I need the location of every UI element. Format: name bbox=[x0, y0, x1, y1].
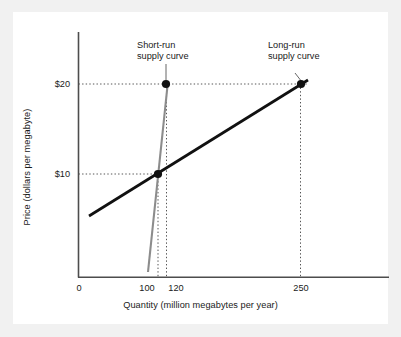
point-long-run-equilibrium bbox=[297, 80, 305, 88]
long-run-supply-curve bbox=[89, 80, 308, 216]
point-short-run-high-price bbox=[162, 80, 170, 88]
point-short-run-equilibrium bbox=[154, 170, 162, 178]
long-run-supply-curve-label: Long-run supply curve bbox=[268, 40, 320, 63]
guide-lines bbox=[79, 84, 309, 277]
x-tick-label-100: 100 bbox=[139, 283, 154, 293]
long-run-label-line2: supply curve bbox=[268, 51, 320, 62]
x-tick-label-0: 0 bbox=[76, 283, 81, 293]
x-axis-title: Quantity (million megabytes per year) bbox=[0, 300, 401, 310]
figure-root: $20 $10 0 100 120 250 Short-run supply c… bbox=[0, 0, 401, 337]
short-run-label-line2: supply curve bbox=[137, 51, 189, 62]
x-tick-label-120: 120 bbox=[168, 283, 183, 293]
y-tick-label-20: $20 bbox=[36, 79, 70, 89]
short-run-supply-curve-label: Short-run supply curve bbox=[137, 40, 189, 63]
x-tick-label-250: 250 bbox=[293, 283, 308, 293]
y-axis-title-wrap: Price (dollars per megabyte) bbox=[0, 0, 36, 337]
y-tick-label-10: $10 bbox=[36, 169, 70, 179]
short-run-label-line1: Short-run bbox=[137, 40, 189, 51]
y-axis-title: Price (dollars per megabyte) bbox=[22, 77, 32, 257]
long-run-label-line1: Long-run bbox=[268, 40, 320, 51]
axes bbox=[78, 32, 389, 278]
